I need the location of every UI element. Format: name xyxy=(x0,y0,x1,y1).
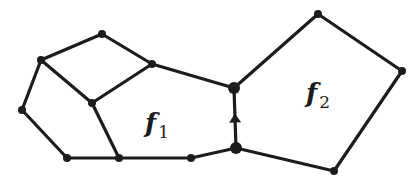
edge-A-B xyxy=(41,34,102,60)
face-label-f1: f1 xyxy=(145,108,169,142)
edge-E-F xyxy=(22,110,67,158)
vertex-C xyxy=(148,60,156,68)
edge-H-K xyxy=(191,148,236,158)
edge-B-D xyxy=(41,60,92,103)
face-label-f2: f2 xyxy=(306,78,330,112)
arrowhead-icon xyxy=(229,114,241,123)
vertex-N xyxy=(330,167,338,175)
edge-J-L xyxy=(234,14,318,88)
vertex-E xyxy=(18,106,26,114)
vertex-A xyxy=(98,30,106,38)
vertex-D xyxy=(88,99,96,107)
planar-graph-diagram: f1 f2 xyxy=(0,0,420,180)
edge-C-J xyxy=(152,64,234,88)
arrows-group xyxy=(229,114,241,123)
vertex-J xyxy=(228,82,240,94)
edge-B-E xyxy=(22,60,41,110)
edge-M-N xyxy=(334,71,402,171)
vertex-B xyxy=(37,56,45,64)
vertex-L xyxy=(314,10,322,18)
vertex-K xyxy=(230,142,242,154)
edge-N-K xyxy=(236,148,334,171)
edge-L-M xyxy=(318,14,402,71)
edges-group xyxy=(22,14,402,171)
edge-A-C xyxy=(102,34,152,64)
edge-C-D xyxy=(92,64,152,103)
face-symbol: f xyxy=(145,108,156,138)
vertex-G xyxy=(115,154,123,162)
graph-canvas xyxy=(0,0,420,180)
edge-D-G xyxy=(92,103,119,158)
vertex-H xyxy=(187,154,195,162)
face-subscript: 1 xyxy=(158,122,169,142)
vertex-M xyxy=(398,67,406,75)
face-subscript: 2 xyxy=(319,92,330,112)
face-symbol: f xyxy=(306,78,317,108)
vertex-F xyxy=(63,154,71,162)
